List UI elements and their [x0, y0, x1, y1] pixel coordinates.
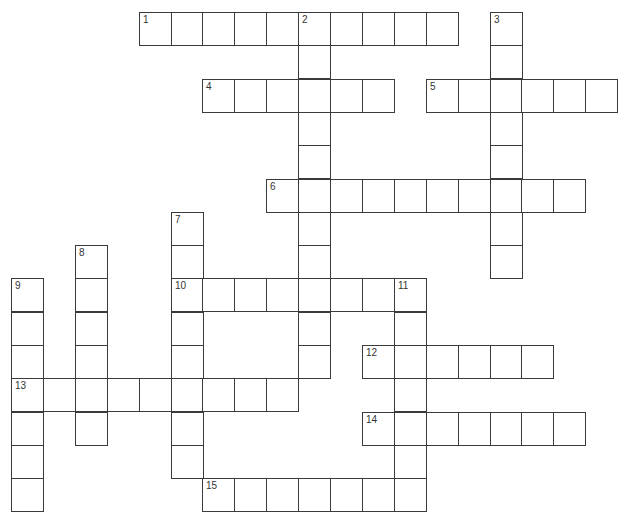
crossword-cell[interactable] — [490, 179, 523, 213]
crossword-cell[interactable] — [266, 12, 299, 46]
crossword-cell[interactable] — [362, 478, 395, 512]
crossword-cell[interactable] — [171, 312, 204, 346]
crossword-cell[interactable] — [490, 112, 523, 146]
crossword-cell[interactable] — [11, 345, 44, 379]
crossword-cell[interactable] — [298, 312, 331, 346]
crossword-cell[interactable] — [75, 345, 108, 379]
crossword-cell[interactable]: 5 — [426, 79, 459, 113]
crossword-cell[interactable] — [553, 179, 586, 213]
crossword-cell[interactable] — [490, 145, 523, 179]
crossword-cell[interactable] — [553, 412, 586, 446]
crossword-cell[interactable] — [426, 412, 459, 446]
crossword-cell[interactable] — [458, 79, 491, 113]
crossword-cell[interactable] — [266, 79, 299, 113]
crossword-cell[interactable] — [11, 312, 44, 346]
crossword-cell[interactable] — [298, 145, 331, 179]
crossword-cell[interactable] — [139, 378, 172, 412]
crossword-cell[interactable] — [330, 179, 363, 213]
crossword-cell[interactable] — [43, 378, 76, 412]
crossword-cell[interactable] — [171, 12, 204, 46]
crossword-cell[interactable] — [330, 12, 363, 46]
crossword-cell[interactable] — [75, 378, 108, 412]
crossword-cell[interactable]: 10 — [171, 278, 204, 312]
crossword-cell[interactable] — [330, 278, 363, 312]
crossword-cell[interactable] — [11, 412, 44, 446]
crossword-cell[interactable] — [266, 278, 299, 312]
crossword-cell[interactable] — [458, 412, 491, 446]
crossword-cell[interactable] — [234, 378, 267, 412]
crossword-cell[interactable] — [11, 445, 44, 479]
crossword-cell[interactable] — [298, 212, 331, 246]
crossword-cell[interactable] — [585, 79, 618, 113]
crossword-cell[interactable] — [234, 12, 267, 46]
crossword-cell[interactable] — [490, 212, 523, 246]
crossword-cell[interactable] — [490, 245, 523, 279]
crossword-cell[interactable] — [298, 278, 331, 312]
crossword-cell[interactable] — [234, 478, 267, 512]
crossword-cell[interactable] — [553, 79, 586, 113]
crossword-cell[interactable]: 8 — [75, 245, 108, 279]
crossword-cell[interactable]: 1 — [139, 12, 172, 46]
crossword-cell[interactable] — [11, 478, 44, 512]
crossword-cell[interactable] — [75, 412, 108, 446]
crossword-cell[interactable] — [298, 112, 331, 146]
crossword-cell[interactable] — [458, 179, 491, 213]
crossword-cell[interactable]: 9 — [11, 278, 44, 312]
crossword-cell[interactable] — [266, 478, 299, 512]
crossword-cell[interactable] — [202, 12, 235, 46]
crossword-cell[interactable] — [394, 445, 427, 479]
crossword-cell[interactable] — [298, 478, 331, 512]
crossword-cell[interactable] — [426, 12, 459, 46]
crossword-cell[interactable]: 4 — [202, 79, 235, 113]
crossword-cell[interactable] — [298, 245, 331, 279]
crossword-cell[interactable] — [171, 245, 204, 279]
crossword-cell[interactable]: 11 — [394, 278, 427, 312]
crossword-cell[interactable] — [394, 345, 427, 379]
crossword-cell[interactable] — [330, 478, 363, 512]
crossword-cell[interactable] — [107, 378, 140, 412]
crossword-cell[interactable] — [75, 312, 108, 346]
crossword-cell[interactable] — [394, 12, 427, 46]
crossword-cell[interactable] — [458, 345, 491, 379]
crossword-cell[interactable] — [171, 412, 204, 446]
crossword-cell[interactable] — [521, 412, 554, 446]
crossword-cell[interactable] — [266, 378, 299, 412]
crossword-cell[interactable]: 14 — [362, 412, 395, 446]
crossword-cell[interactable] — [362, 278, 395, 312]
crossword-cell[interactable] — [490, 79, 523, 113]
crossword-cell[interactable] — [298, 45, 331, 79]
crossword-cell[interactable] — [362, 179, 395, 213]
crossword-cell[interactable] — [394, 478, 427, 512]
crossword-cell[interactable]: 12 — [362, 345, 395, 379]
crossword-cell[interactable] — [234, 79, 267, 113]
crossword-cell[interactable] — [75, 278, 108, 312]
crossword-cell[interactable] — [426, 179, 459, 213]
crossword-cell[interactable] — [521, 79, 554, 113]
crossword-cell[interactable] — [298, 179, 331, 213]
crossword-cell[interactable]: 6 — [266, 179, 299, 213]
crossword-cell[interactable] — [298, 345, 331, 379]
crossword-cell[interactable] — [362, 79, 395, 113]
crossword-cell[interactable] — [394, 412, 427, 446]
crossword-cell[interactable] — [521, 345, 554, 379]
crossword-cell[interactable] — [490, 45, 523, 79]
crossword-cell[interactable]: 7 — [171, 212, 204, 246]
crossword-cell[interactable] — [171, 445, 204, 479]
crossword-cell[interactable]: 13 — [11, 378, 44, 412]
crossword-cell[interactable]: 3 — [490, 12, 523, 46]
crossword-cell[interactable] — [202, 278, 235, 312]
crossword-cell[interactable] — [171, 378, 204, 412]
crossword-cell[interactable] — [330, 79, 363, 113]
crossword-cell[interactable] — [394, 378, 427, 412]
crossword-cell[interactable] — [394, 312, 427, 346]
crossword-cell[interactable] — [394, 179, 427, 213]
crossword-cell[interactable]: 2 — [298, 12, 331, 46]
crossword-cell[interactable] — [426, 345, 459, 379]
crossword-cell[interactable] — [202, 378, 235, 412]
crossword-cell[interactable] — [362, 12, 395, 46]
crossword-cell[interactable] — [490, 345, 523, 379]
crossword-cell[interactable]: 15 — [202, 478, 235, 512]
crossword-cell[interactable] — [171, 345, 204, 379]
crossword-cell[interactable] — [490, 412, 523, 446]
crossword-cell[interactable] — [298, 79, 331, 113]
